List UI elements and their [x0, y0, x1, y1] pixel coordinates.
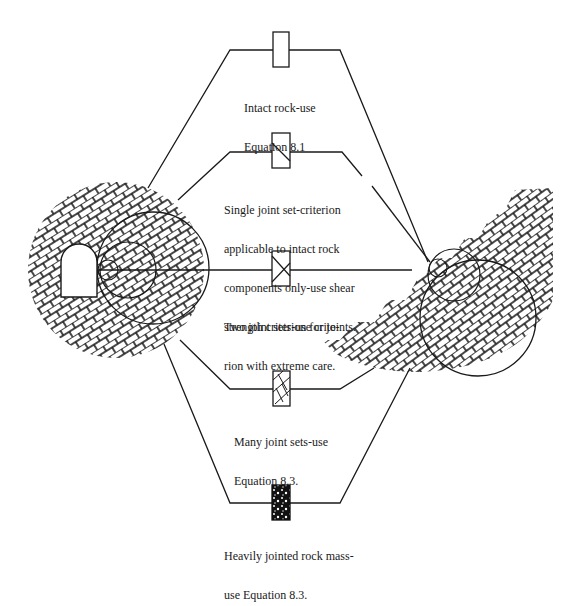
tunnel-icon [61, 244, 97, 297]
label-line: Single joint set-criterion [224, 204, 356, 217]
label-line: Equation 8.3. [234, 475, 328, 488]
slope-rock-mass [320, 180, 560, 380]
label-line: use Equation 8.3. [224, 589, 354, 602]
label-line: applicable to intact rock [224, 243, 356, 256]
label-line: rion with extreme care. [224, 360, 339, 373]
blank-box-icon [273, 32, 289, 67]
label-line: Heavily jointed rock mass- [224, 550, 354, 563]
label-heavily-jointed: Heavily jointed rock mass- use Equation … [224, 524, 354, 606]
label-intact: Intact rock-use Equation 8.1 [244, 76, 316, 167]
label-line: Intact rock-use [244, 102, 316, 115]
label-line: Equation 8.1 [244, 141, 316, 154]
label-line: components only-use shear [224, 282, 356, 295]
label-many-joints: Many joint sets-use Equation 8.3. [234, 410, 328, 501]
label-line: Many joint sets-use [234, 436, 328, 449]
label-two-joints: Two joint sets-use crite- rion with extr… [224, 295, 339, 386]
label-line: Two joint sets-use crite- [224, 321, 339, 334]
